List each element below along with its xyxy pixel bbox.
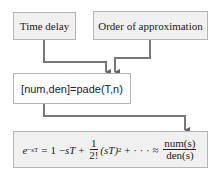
frac1-denominator: 2! xyxy=(89,150,98,161)
pade-equation: e−sT = 1 − sT + 1 2! (sT)2 + · · · ≈ num… xyxy=(23,138,199,161)
pade-function-box: [num,den]=pade(T,n) xyxy=(13,73,131,104)
time-delay-box: Time delay xyxy=(13,12,76,40)
frac2-denominator: den(s) xyxy=(166,150,194,161)
order-of-approximation-label: Order of approximation xyxy=(98,20,202,32)
time-delay-label: Time delay xyxy=(20,20,69,32)
eq-equals: = xyxy=(41,144,47,156)
eq-exponent: −sT xyxy=(27,146,38,154)
pade-equation-box: e−sT = 1 − sT + 1 2! (sT)2 + · · · ≈ num… xyxy=(13,131,208,168)
eq-term2: sT xyxy=(65,144,75,156)
eq-fraction-1: 1 2! xyxy=(89,138,98,161)
eq-fraction-2: num(s) den(s) xyxy=(163,138,196,161)
eq-tail: + · · · ≈ xyxy=(122,144,162,156)
eq-plus: + xyxy=(75,144,87,156)
order-of-approximation-box: Order of approximation xyxy=(93,11,208,40)
pade-function-label: [num,den]=pade(T,n) xyxy=(21,83,123,95)
eq-term3: (sT) xyxy=(100,144,118,156)
eq-term1: 1 − xyxy=(51,144,65,156)
